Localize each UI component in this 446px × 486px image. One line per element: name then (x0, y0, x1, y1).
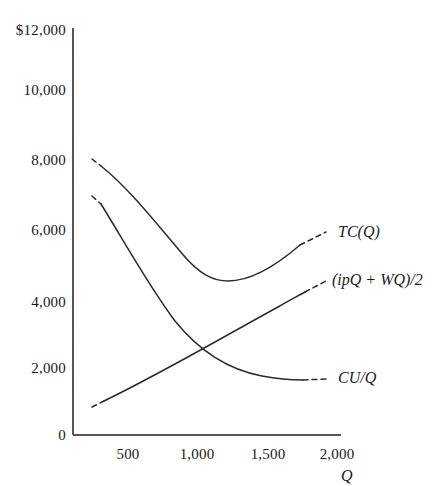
series-holding-cost (92, 281, 326, 407)
chart-figure: $12,000 10,000 8,000 6,000 4,000 2,000 0… (0, 0, 446, 486)
series-cu-q-path (101, 204, 303, 380)
series-cu-q (92, 196, 326, 380)
y-tick-label-12000: $12,000 (0, 23, 66, 38)
chart-plot-area (0, 0, 446, 486)
series-holding-cost-dash-start (92, 401, 104, 407)
y-tick-label-10000: 10,000 (0, 83, 66, 98)
y-tick-label-0: 0 (0, 428, 66, 443)
series-label-cu-q: CU/Q (338, 370, 376, 386)
series-label-tc-q: TC(Q) (338, 224, 380, 240)
series-cu-q-dash-end (303, 379, 326, 380)
x-tick-label-500: 500 (98, 447, 158, 462)
series-holding-cost-dash-end (305, 281, 326, 292)
series-tc-q-path (101, 166, 300, 281)
x-tick-label-1000: 1,000 (167, 447, 227, 462)
series-tc-q (92, 159, 326, 281)
y-tick-label-6000: 6,000 (0, 223, 66, 238)
y-tick-label-2000: 2,000 (0, 361, 66, 376)
series-tc-q-dash-start (92, 159, 101, 166)
series-holding-cost-path (104, 292, 305, 401)
series-tc-q-dash-end (300, 232, 326, 245)
series-cu-q-dash-start (92, 196, 101, 204)
x-tick-label-1500: 1,500 (238, 447, 298, 462)
series-label-holding-cost: (ipQ + WQ)/2 (332, 272, 423, 288)
y-tick-label-4000: 4,000 (0, 295, 66, 310)
x-tick-label-2000: 2,000 (307, 447, 367, 462)
x-axis-title: Q (341, 468, 353, 484)
y-tick-label-8000: 8,000 (0, 153, 66, 168)
